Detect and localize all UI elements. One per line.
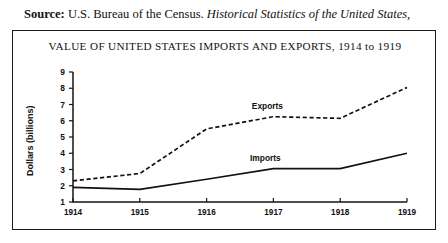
y-tick-label: 4 <box>60 148 65 158</box>
series-line-exports <box>73 87 407 180</box>
y-tick-label: 7 <box>60 100 65 110</box>
plot-area: Dollars (billions) 123456789 19141915191… <box>13 31 437 231</box>
x-tick-label: 1919 <box>398 208 417 217</box>
source-label: Source: <box>24 7 65 21</box>
y-tick-label: 6 <box>60 116 65 126</box>
figure-page: Source: U.S. Bureau of the Census. Histo… <box>0 0 448 243</box>
x-axis-tick-labels: 191419151916191719181919 <box>64 208 417 217</box>
chart-frame: VALUE OF UNITED STATES IMPORTS AND EXPOR… <box>12 30 436 230</box>
series-annotation-imports: Imports <box>250 153 281 163</box>
source-citation: Source: U.S. Bureau of the Census. Histo… <box>24 7 436 22</box>
y-tick-label: 8 <box>60 83 65 93</box>
y-tick-label: 2 <box>60 181 65 191</box>
source-agency: U.S. Bureau of the Census. <box>68 7 204 21</box>
x-tick-label: 1916 <box>197 208 216 217</box>
y-axis-tick-labels: 123456789 <box>60 67 65 207</box>
x-tick-label: 1918 <box>331 208 350 217</box>
line-chart-svg: 123456789 191419151916191719181919 Expor… <box>13 31 437 231</box>
x-tick-label: 1914 <box>64 208 83 217</box>
chart-axes <box>73 72 407 202</box>
y-tick-label: 1 <box>60 197 65 207</box>
y-tick-label: 3 <box>60 165 65 175</box>
y-tick-label: 5 <box>60 132 65 142</box>
series-line-imports <box>73 153 407 189</box>
source-publication: Historical Statistics of the United Stat… <box>207 7 410 21</box>
x-tick-label: 1917 <box>264 208 283 217</box>
y-tick-label: 9 <box>60 67 65 77</box>
x-tick-label: 1915 <box>131 208 150 217</box>
series-annotation-exports: Exports <box>252 101 284 111</box>
